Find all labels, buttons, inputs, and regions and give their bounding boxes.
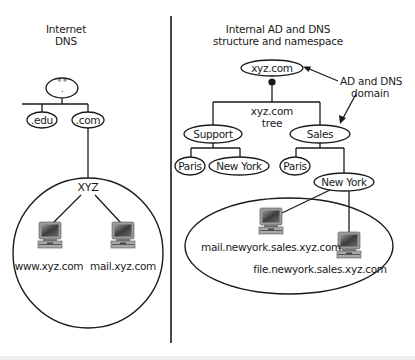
computer-icon xyxy=(39,222,61,248)
computer-icon xyxy=(260,208,282,234)
host-label-mail-newyork: mail.newyork.sales.xyz.com xyxy=(201,241,341,253)
bottom-edge xyxy=(0,356,415,360)
tree-label-line2: tree xyxy=(251,117,293,129)
xyz-root-label: xyz.com xyxy=(251,62,293,74)
left-title: Internet DNS xyxy=(46,23,86,47)
right-title-line1: Internal AD and DNS xyxy=(213,23,343,35)
xyz-domain-circle xyxy=(13,178,163,328)
support-newyork-label: New York xyxy=(216,160,262,172)
annotation-ad-dns-domain: AD and DNS domain xyxy=(340,75,402,99)
sales-node-label: Sales xyxy=(307,128,333,140)
host-label-file-newyork: file.newyork.sales.xyz.com xyxy=(253,263,386,275)
annotation-line2: domain xyxy=(340,87,402,99)
computer-icon xyxy=(338,232,360,258)
right-title-line2: structure and namespace xyxy=(213,35,343,47)
support-paris-label: Paris xyxy=(178,160,202,172)
left-title-line1: Internet xyxy=(46,23,86,35)
left-title-line2: DNS xyxy=(46,35,86,47)
com-node-label: .com xyxy=(76,114,101,126)
edu-node-label: .edu xyxy=(31,114,53,126)
tree-label: xyz.com tree xyxy=(251,105,293,129)
right-title: Internal AD and DNS structure and namesp… xyxy=(213,23,343,47)
sales-newyork-label: New York xyxy=(321,176,367,188)
annotation-line1: AD and DNS xyxy=(340,75,402,87)
host-label-mail: mail.xyz.com xyxy=(90,260,156,272)
xyz-domain-label: XYZ xyxy=(78,182,99,194)
computer-icon xyxy=(112,222,134,248)
root-node-dot: . xyxy=(61,84,63,96)
host-label-www: www.xyz.com xyxy=(15,260,84,272)
sales-paris-label: Paris xyxy=(283,160,307,172)
support-node-label: Support xyxy=(193,128,232,140)
tree-label-line1: xyz.com xyxy=(251,105,293,117)
